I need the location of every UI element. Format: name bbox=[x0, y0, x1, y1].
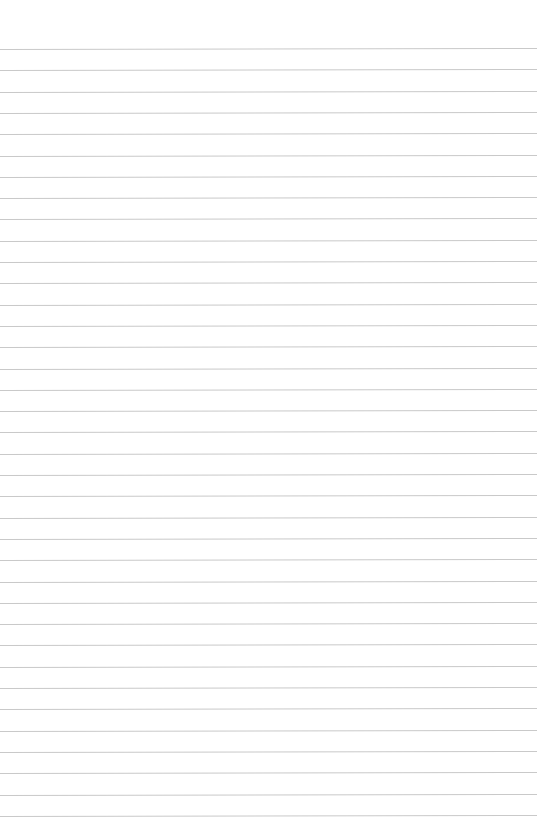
ruled-line bbox=[0, 389, 537, 391]
ruled-line bbox=[0, 751, 537, 753]
ruled-line bbox=[0, 112, 537, 114]
ruled-line bbox=[0, 133, 537, 135]
ruled-line bbox=[0, 644, 537, 646]
ruled-line bbox=[0, 48, 537, 50]
ruled-line bbox=[0, 666, 537, 668]
ruled-line bbox=[0, 687, 537, 689]
ruled-line bbox=[0, 495, 537, 497]
ruled-line bbox=[0, 367, 537, 369]
ruled-line bbox=[0, 453, 537, 455]
ruled-line bbox=[0, 303, 537, 305]
ruled-line bbox=[0, 815, 537, 817]
ruled-line bbox=[0, 346, 537, 348]
ruled-line bbox=[0, 793, 537, 795]
ruled-line bbox=[0, 772, 537, 774]
ruled-line bbox=[0, 559, 537, 561]
ruled-line bbox=[0, 240, 537, 242]
ruled-line bbox=[0, 69, 537, 71]
ruled-line bbox=[0, 623, 537, 625]
ruled-line bbox=[0, 431, 537, 433]
ruled-line bbox=[0, 325, 537, 327]
ruled-line bbox=[0, 580, 537, 582]
ruled-line bbox=[0, 602, 537, 604]
ruled-line bbox=[0, 708, 537, 710]
ruled-page bbox=[0, 0, 537, 836]
ruled-line bbox=[0, 410, 537, 412]
ruled-line bbox=[0, 282, 537, 284]
ruled-line bbox=[0, 176, 537, 178]
ruled-line bbox=[0, 218, 537, 220]
ruled-line bbox=[0, 729, 537, 731]
ruled-line bbox=[0, 154, 537, 156]
ruled-line bbox=[0, 474, 537, 476]
ruled-line bbox=[0, 516, 537, 518]
ruled-line bbox=[0, 538, 537, 540]
ruled-line bbox=[0, 197, 537, 199]
ruled-line bbox=[0, 90, 537, 92]
ruled-line bbox=[0, 261, 537, 263]
